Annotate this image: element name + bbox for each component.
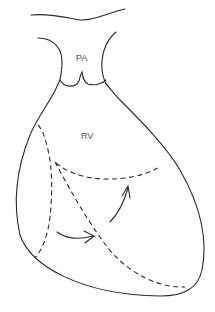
- label-rv: RV: [81, 131, 93, 141]
- pa-left-wall: [38, 38, 62, 84]
- heart-diagram: PA RV: [0, 0, 215, 312]
- pa-right-wall: [102, 32, 116, 84]
- pa-top-edge: [31, 9, 125, 20]
- diagonal-dashed: [55, 162, 185, 287]
- outflow-arrowhead: [122, 186, 130, 198]
- crista-arc-dashed: [56, 163, 158, 179]
- septal-boundary-dashed: [35, 125, 52, 258]
- label-pa: PA: [76, 53, 87, 63]
- outflow-arrow: [110, 188, 128, 222]
- pulmonary-valve-cusps: [60, 72, 106, 86]
- rv-outer-wall: [16, 84, 204, 296]
